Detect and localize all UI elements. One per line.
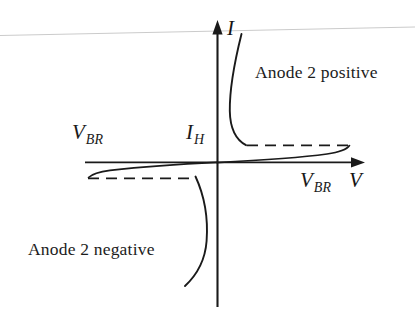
label-v-br-left-symbol: V bbox=[72, 120, 85, 144]
axis-label-v: V bbox=[349, 170, 362, 191]
vertical-axis-i bbox=[212, 20, 222, 307]
label-v-br-right-symbol: V bbox=[300, 168, 313, 192]
label-v-br-left-subscript: BR bbox=[86, 132, 103, 147]
label-v-br-right: VBR bbox=[300, 170, 330, 191]
caption-anode-2-negative: Anode 2 negative bbox=[28, 241, 155, 259]
curve-anode2-positive bbox=[230, 34, 246, 145]
label-v-br-left: VBR bbox=[72, 122, 102, 143]
iv-characteristic-figure: I V VBR IH VBR Anode 2 positive Anode 2 … bbox=[0, 0, 415, 316]
caption-anode-2-positive: Anode 2 positive bbox=[255, 64, 378, 82]
curve-positive-blocking-region bbox=[217, 146, 350, 163]
axis-label-i: I bbox=[227, 18, 234, 39]
label-i-h-symbol: I bbox=[186, 120, 193, 144]
label-i-h: IH bbox=[186, 122, 203, 143]
v-axis-arrowhead bbox=[351, 157, 365, 167]
curve-anode2-negative bbox=[185, 177, 207, 287]
label-v-br-right-subscript: BR bbox=[314, 180, 331, 195]
i-axis-arrowhead bbox=[212, 20, 222, 35]
label-i-h-subscript: H bbox=[194, 132, 204, 147]
curve-negative-blocking-region bbox=[89, 162, 218, 177]
scan-artifact-line bbox=[0, 27, 415, 36]
iv-curve-drawing bbox=[0, 0, 415, 316]
